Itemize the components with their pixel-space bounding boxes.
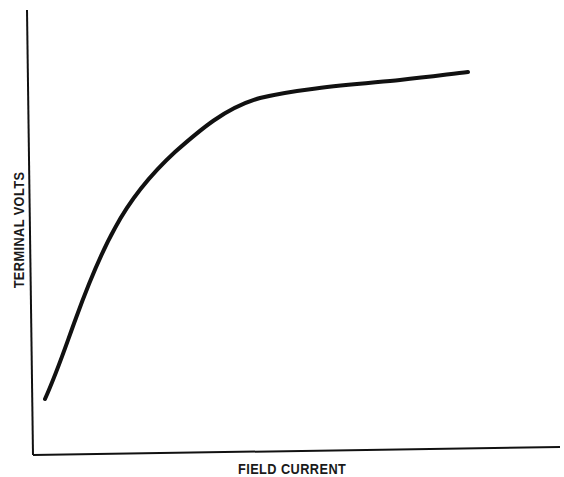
x-axis bbox=[33, 447, 560, 455]
y-axis bbox=[27, 10, 33, 455]
y-axis-label: TERMINAL VOLTS bbox=[10, 172, 27, 289]
magnetization-curve bbox=[45, 72, 468, 399]
x-axis-label: FIELD CURRENT bbox=[238, 460, 346, 477]
chart-canvas bbox=[0, 0, 564, 477]
